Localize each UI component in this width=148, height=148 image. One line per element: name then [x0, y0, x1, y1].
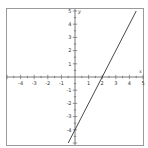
y-tick-label: -2	[67, 100, 72, 106]
x-tick-label: -2	[45, 80, 50, 86]
y-axis-label: y	[77, 8, 81, 15]
x-tick-label: 3	[114, 80, 117, 86]
x-axis-label: x	[139, 68, 142, 74]
y-tick-label: 4	[68, 21, 71, 27]
x-tick-label: 1	[87, 80, 90, 86]
x-tick-label: -3	[32, 80, 37, 86]
y-tick-label: -3	[67, 113, 72, 119]
y-tick-label: 1	[68, 61, 71, 67]
x-tick-label: 5	[141, 80, 144, 86]
y-tick-label: 2	[68, 47, 71, 53]
y-tick-label: 3	[68, 34, 71, 40]
x-tick-label: 2	[101, 80, 104, 86]
y-tick-label: -1	[67, 87, 72, 93]
x-tick-label: -4	[18, 80, 23, 86]
y-tick-label: 5	[68, 8, 71, 14]
coordinate-plane: -4-3-2-11234554321-1-2-3-4 x y	[0, 0, 148, 148]
x-tick-label: -1	[59, 80, 64, 86]
x-tick-label: 4	[128, 80, 131, 86]
y-tick-label: -4	[67, 127, 72, 133]
